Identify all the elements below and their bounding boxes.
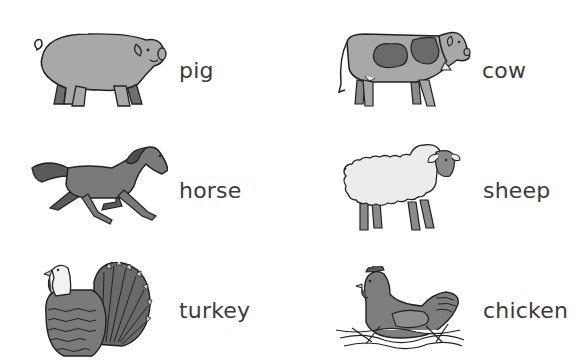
animal-card-turkey: turkey	[0, 240, 290, 360]
animal-card-cow: cow	[290, 0, 580, 120]
cow-illustration	[335, 28, 475, 110]
animal-label-turkey: turkey	[179, 298, 250, 323]
animal-label-cow: cow	[482, 58, 526, 83]
animal-card-sheep: sheep	[290, 120, 580, 240]
animal-label-horse: horse	[179, 178, 241, 203]
animal-label-chicken: chicken	[483, 298, 568, 323]
pig-illustration	[28, 28, 168, 110]
animal-card-chicken: chicken	[290, 240, 580, 360]
animal-label-pig: pig	[179, 58, 214, 83]
animal-label-sheep: sheep	[483, 178, 550, 203]
chicken-illustration	[336, 266, 472, 352]
horse-illustration	[28, 146, 168, 230]
turkey-illustration	[42, 262, 154, 360]
animal-card-pig: pig	[0, 0, 290, 120]
animal-card-horse: horse	[0, 120, 290, 240]
sheep-illustration	[338, 142, 468, 234]
